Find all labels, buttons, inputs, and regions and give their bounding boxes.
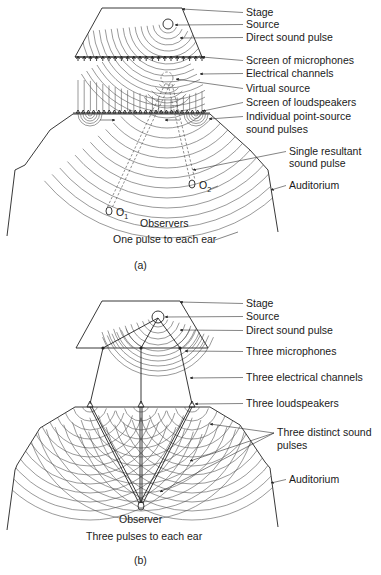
label-2: Direct sound pulse — [246, 324, 333, 336]
panel-b: Observer Three pulses to each ear (b) St… — [0, 297, 372, 566]
observers-label: Observers — [140, 217, 188, 229]
observer-1-label: O1 — [116, 206, 128, 220]
observer-2 — [189, 180, 195, 188]
label-8: sound pulses — [246, 123, 308, 135]
label-4: Three electrical channels — [246, 371, 363, 383]
label-9: Single resultant — [289, 145, 361, 157]
label-8: Auditorium — [289, 473, 339, 485]
one-pulse-note: One pulse to each ear — [113, 233, 217, 245]
distinct-pulse-arcs — [0, 406, 304, 520]
label-10: sound pulse — [289, 157, 346, 169]
three-pulses-note: Three pulses to each ear — [86, 530, 203, 542]
label-3: Screen of microphones — [246, 54, 354, 66]
electrical-channels-b — [90, 348, 192, 404]
observer-1 — [106, 207, 112, 215]
label-2: Direct sound pulse — [246, 31, 333, 43]
label-5: Virtual source — [246, 82, 310, 94]
label-6: Three distinct sound — [277, 426, 372, 438]
stage-b — [76, 301, 208, 348]
label-1: Source — [246, 18, 279, 30]
source-a — [163, 19, 173, 29]
electrical-channels-a — [78, 80, 202, 111]
label-0: Stage — [246, 6, 274, 18]
panel-a: O1 O2 Observers One pulse to each ear (a… — [7, 6, 361, 271]
label-0: Stage — [246, 297, 274, 309]
direct-pulse-arcs-b — [102, 320, 214, 375]
label-6: Screen of loudspeakers — [246, 96, 356, 108]
label-5: Three loudspeakers — [246, 397, 339, 409]
label-4: Electrical channels — [246, 67, 334, 79]
label-7: pulses — [277, 439, 307, 451]
source-b — [152, 311, 164, 323]
sound-reproduction-diagram: O1 O2 Observers One pulse to each ear (a… — [0, 0, 381, 575]
observer-label: Observer — [119, 513, 163, 525]
label-3: Three microphones — [246, 345, 336, 357]
label-1: Source — [246, 310, 279, 322]
label-7: Individual point-source — [246, 110, 351, 122]
label-11: Auditorium — [289, 179, 339, 191]
caption-b: (b) — [134, 554, 147, 566]
caption-a: (a) — [134, 259, 147, 271]
observer-b — [138, 502, 144, 510]
observer-2-label: O2 — [199, 179, 211, 193]
